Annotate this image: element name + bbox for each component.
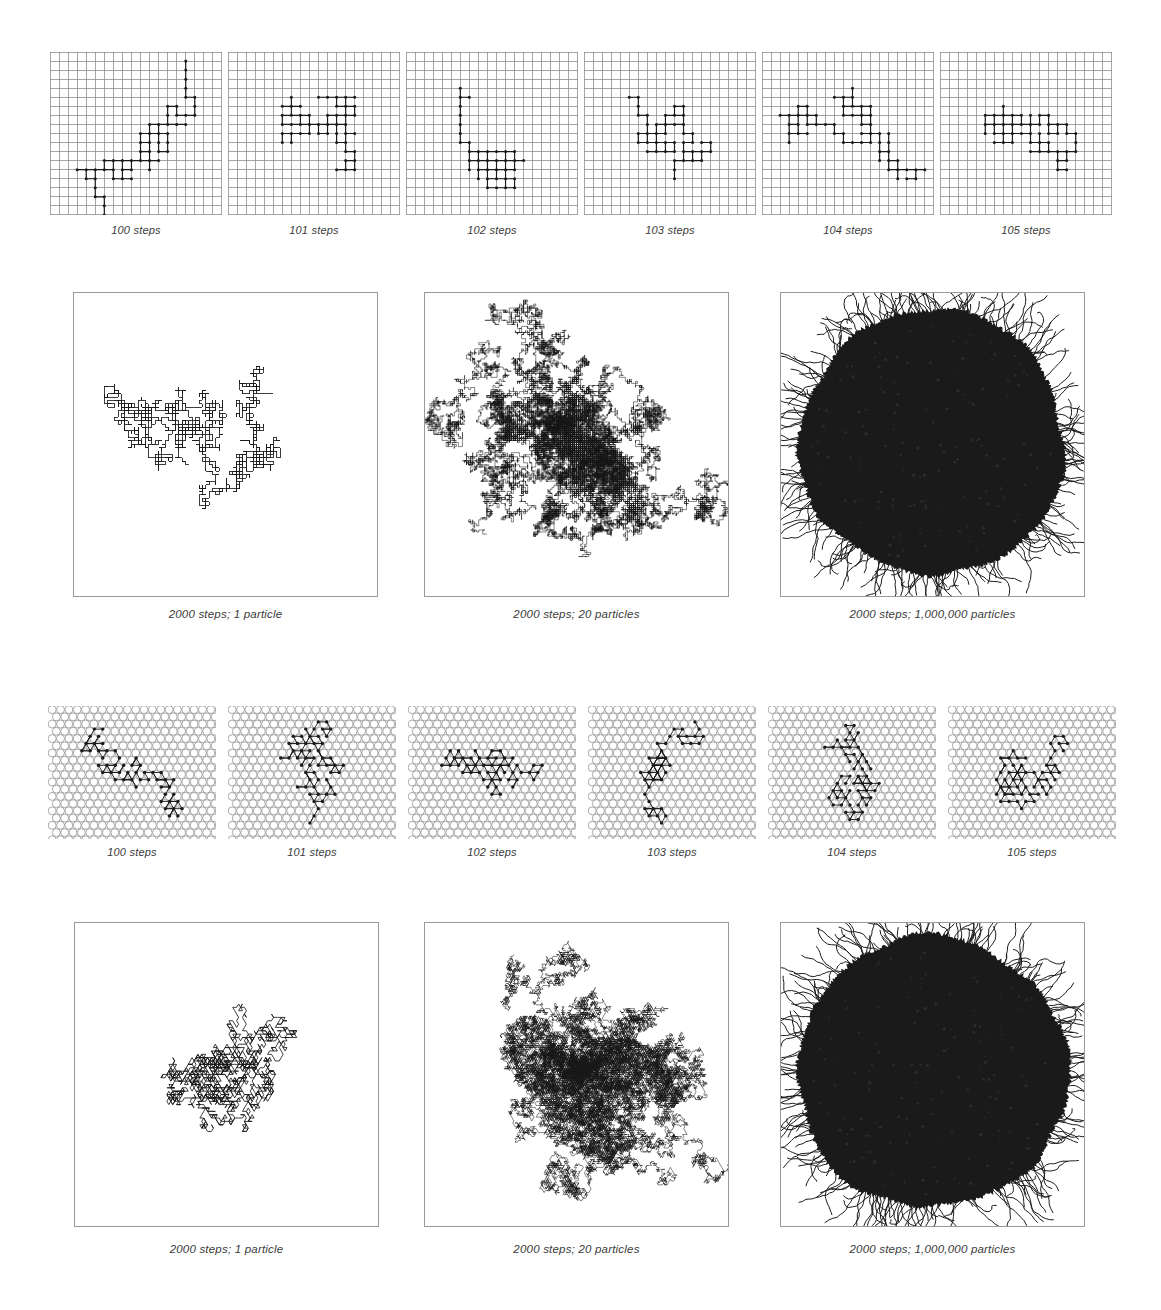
panel-triangular-2000-steps-1-particle xyxy=(74,922,379,1227)
caption-triangular-102-steps: 102 steps xyxy=(408,846,576,858)
random-walk-figure: 100 steps 101 steps 102 steps 103 steps … xyxy=(0,0,1161,1310)
caption-triangular-100-steps: 100 steps xyxy=(48,846,216,858)
caption-triangular-101-steps: 101 steps xyxy=(228,846,396,858)
caption-square-102-steps: 102 steps xyxy=(406,224,578,236)
caption-square-105-steps: 105 steps xyxy=(940,224,1112,236)
panel-triangular-2000-steps-1000000-particles xyxy=(780,922,1085,1227)
caption-square-101-steps: 101 steps xyxy=(228,224,400,236)
panel-square-105-steps xyxy=(940,52,1112,215)
panel-triangular-2000-steps-20-particles xyxy=(424,922,729,1227)
caption-square-100-steps: 100 steps xyxy=(50,224,222,236)
caption-square-2000-steps-1-particle: 2000 steps; 1 particle xyxy=(73,608,378,620)
panel-square-101-steps xyxy=(228,52,400,215)
caption-square-2000-steps-20-particles: 2000 steps; 20 particles xyxy=(424,608,729,620)
caption-triangular-2000-steps-20-particles: 2000 steps; 20 particles xyxy=(424,1243,729,1255)
caption-square-104-steps: 104 steps xyxy=(762,224,934,236)
panel-square-100-steps xyxy=(50,52,222,215)
caption-square-2000-steps-1000000-particles: 2000 steps; 1,000,000 particles xyxy=(780,608,1085,620)
panel-triangular-100-steps xyxy=(48,706,216,839)
panel-square-104-steps xyxy=(762,52,934,215)
caption-triangular-103-steps: 103 steps xyxy=(588,846,756,858)
panel-square-2000-steps-1000000-particles xyxy=(780,292,1085,597)
caption-triangular-2000-steps-1000000-particles: 2000 steps; 1,000,000 particles xyxy=(780,1243,1085,1255)
panel-square-2000-steps-1-particle xyxy=(73,292,378,597)
caption-triangular-104-steps: 104 steps xyxy=(768,846,936,858)
panel-triangular-101-steps xyxy=(228,706,396,839)
panel-triangular-102-steps xyxy=(408,706,576,839)
caption-triangular-2000-steps-1-particle: 2000 steps; 1 particle xyxy=(74,1243,379,1255)
panel-triangular-104-steps xyxy=(768,706,936,839)
caption-triangular-105-steps: 105 steps xyxy=(948,846,1116,858)
panel-square-2000-steps-20-particles xyxy=(424,292,729,597)
panel-triangular-105-steps xyxy=(948,706,1116,839)
caption-square-103-steps: 103 steps xyxy=(584,224,756,236)
panel-triangular-103-steps xyxy=(588,706,756,839)
panel-square-102-steps xyxy=(406,52,578,215)
panel-square-103-steps xyxy=(584,52,756,215)
